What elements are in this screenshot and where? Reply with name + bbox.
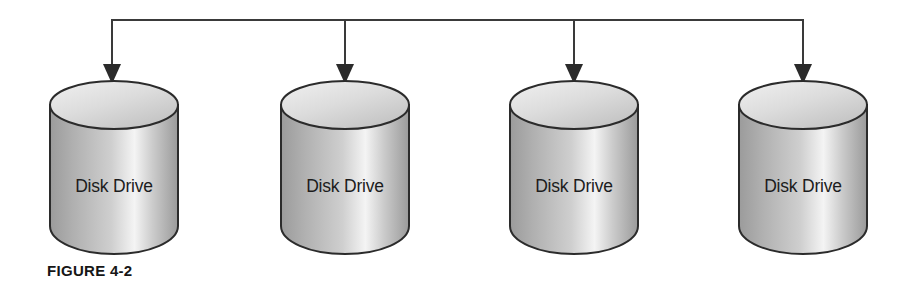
- disk-drive-node: Disk Drive: [508, 80, 640, 258]
- figure-caption: FIGURE 4-2: [47, 262, 133, 279]
- disk-drive-node: Disk Drive: [48, 80, 180, 258]
- disk-drive-label: Disk Drive: [737, 176, 869, 197]
- bus-lines: [112, 20, 803, 68]
- disk-drive-node: Disk Drive: [279, 80, 411, 258]
- figure-diagram: Disk Drive Disk: [0, 0, 911, 296]
- cylinder-icon: [508, 80, 640, 258]
- disk-drive-node: Disk Drive: [737, 80, 869, 258]
- bus-arrowheads: [103, 64, 812, 84]
- cylinder-icon: [48, 80, 180, 258]
- cylinder-icon: [279, 80, 411, 258]
- disk-drive-label: Disk Drive: [279, 176, 411, 197]
- cylinder-icon: [737, 80, 869, 258]
- disk-drive-label: Disk Drive: [508, 176, 640, 197]
- disk-drive-label: Disk Drive: [48, 176, 180, 197]
